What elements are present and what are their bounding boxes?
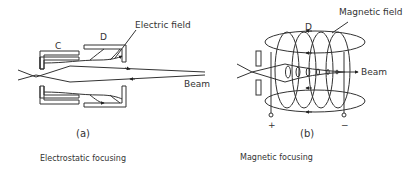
panel-magnetic [237,22,365,117]
beam-label-a: Beam [184,79,210,89]
caption-b: Magnetic focusing [240,153,313,162]
sublabel-a: (a) [76,128,90,139]
terminal-minus: − [341,120,349,130]
beam-label-b: Beam [361,67,387,77]
aperture-bottom [256,80,261,95]
electrode-c-label: C [55,41,61,51]
panel-electrostatic [18,30,205,107]
electric-field-label: Electric field [135,20,191,30]
sublabel-b: (b) [300,128,314,139]
caption-a: Electrostatic focusing [40,154,126,163]
coil-d-label: D [305,22,312,32]
focusing-diagram: C D Electric field Beam (a) Electrostati… [0,0,411,177]
terminal-plus: + [268,120,276,130]
electrode-d-label: D [100,32,107,42]
aperture-top [256,51,261,66]
field-loop-top [265,31,365,53]
magnetic-field-label: Magnetic field [339,7,403,17]
